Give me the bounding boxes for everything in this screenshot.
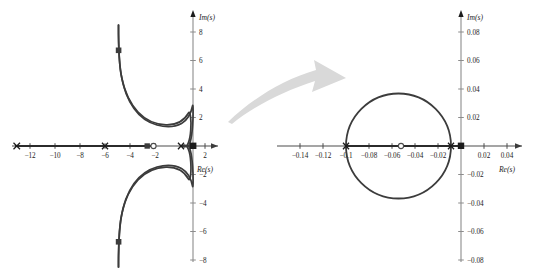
gain-point-marker bbox=[116, 239, 122, 245]
left-xtick-label: −12 bbox=[24, 152, 36, 160]
left-xtick-label: 2 bbox=[203, 152, 207, 160]
right-xtick-label: −0.08 bbox=[361, 152, 378, 160]
left-loop-upper bbox=[118, 25, 190, 147]
left-ytick-label: 2 bbox=[199, 114, 203, 122]
left-xtick-label: −10 bbox=[49, 152, 61, 160]
right-y-axis: 0.08 0.06 0.04 0.02 −0.02 −0.04 −0.06 −0… bbox=[458, 10, 484, 265]
left-y-axis-label: Im(s) bbox=[198, 13, 215, 22]
left-branch-upper bbox=[119, 25, 194, 146]
zero-marker bbox=[151, 143, 156, 148]
right-xtick-label: −0.12 bbox=[315, 152, 332, 160]
right-xtick-label: −0.14 bbox=[292, 152, 309, 160]
right-xtick-label: −0.04 bbox=[407, 152, 424, 160]
left-ytick-label: 4 bbox=[199, 86, 203, 94]
left-xtick-label: −8 bbox=[76, 152, 84, 160]
left-xtick-label: −4 bbox=[126, 152, 134, 160]
left-plot: −12 −10 −8 −6 −4 −2 2 Re(s) bbox=[12, 10, 218, 267]
left-ytick-label: 8 bbox=[199, 29, 203, 37]
gain-point-marker bbox=[116, 48, 122, 54]
right-ytick-label: 0.06 bbox=[467, 57, 480, 65]
left-xtick-label: −2 bbox=[151, 152, 159, 160]
left-branch-lower bbox=[119, 146, 194, 267]
left-ytick-label: −8 bbox=[199, 257, 207, 265]
right-ytick-label: −0.04 bbox=[467, 200, 484, 208]
gain-point-marker bbox=[145, 143, 150, 148]
right-ytick-label: −0.06 bbox=[467, 228, 484, 236]
right-ytick-label: 0.08 bbox=[467, 29, 480, 37]
left-loop-lower bbox=[118, 145, 190, 267]
left-ytick-label: −6 bbox=[199, 228, 207, 236]
right-x-axis-label: Re(s) bbox=[498, 165, 515, 174]
right-ytick-label: 0.04 bbox=[467, 86, 480, 94]
left-ytick-label: 6 bbox=[199, 57, 203, 65]
pole-marker-origin bbox=[190, 143, 196, 149]
transition-arrow-icon bbox=[228, 60, 346, 124]
right-xtick-label: 0.04 bbox=[501, 152, 514, 160]
left-ytick-label: −2 bbox=[199, 171, 207, 179]
left-ytick-label: −4 bbox=[199, 200, 207, 208]
right-ytick-label: 0.02 bbox=[467, 114, 480, 122]
left-xtick-label: −6 bbox=[101, 152, 109, 160]
right-ytick-label: −0.08 bbox=[467, 257, 484, 265]
right-xtick-label: −0.06 bbox=[384, 152, 401, 160]
left-y-axis: 8 6 4 2 −2 −4 −6 −8 Im(s) bbox=[190, 10, 215, 265]
right-ytick-label: −0.02 bbox=[467, 171, 484, 179]
root-locus-figure: −12 −10 −8 −6 −4 −2 2 Re(s) bbox=[0, 0, 533, 278]
pole-marker-origin bbox=[458, 143, 464, 149]
right-xtick-label: 0.02 bbox=[478, 152, 491, 160]
right-xtick-label: −0.02 bbox=[430, 152, 447, 160]
right-y-axis-label: Im(s) bbox=[466, 13, 483, 22]
right-plot: −0.14 −0.12 −0.1 −0.08 −0.06 −0.04 −0.02… bbox=[277, 10, 522, 265]
zero-marker bbox=[398, 143, 403, 148]
